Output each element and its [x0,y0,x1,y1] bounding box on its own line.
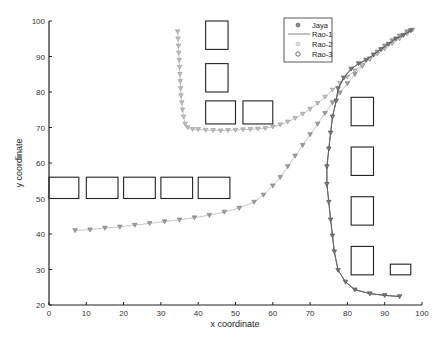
obstacle-rect [243,101,273,124]
data-point-rao-2 [178,87,183,91]
legend-rao1-label: Rao-1 [312,30,332,39]
x-tick-label: 20 [119,309,128,318]
data-point-rao-2 [178,72,183,76]
obstacle-rect [206,64,228,92]
legend-jaya-label: Jaya [312,21,329,30]
data-point-rao-2 [179,94,184,98]
data-point-rao-2 [175,30,180,34]
x-tick-label: 70 [306,309,315,318]
obstacle-rect [86,177,118,198]
obstacle-rect [351,197,373,225]
legend-rao2-marker-icon [296,42,300,46]
data-point-jaya [328,131,333,135]
y-tick-label: 60 [36,159,45,168]
obstacles-layer [49,21,411,275]
obstacle-rect [206,101,236,124]
data-point-jaya [325,183,330,187]
obstacle-rect [351,147,373,175]
data-point-rao-2 [177,65,182,69]
data-point-jaya [336,87,341,91]
x-tick-label: 90 [380,309,389,318]
x-axis-title: x coordinate [210,319,259,329]
data-point-jaya [332,250,337,254]
data-point-jaya [328,218,333,222]
data-point-rao-2 [178,80,183,84]
x-tick-label: 0 [47,309,52,318]
obstacle-rect [49,177,79,198]
obstacle-rect [390,264,411,275]
legend-rao3-label: Rao-3 [312,50,332,59]
data-point-rao-2 [179,101,184,105]
y-tick-label: 70 [36,124,45,133]
x-tick-label: 40 [194,309,203,318]
y-tick-label: 80 [36,88,45,97]
data-point-jaya [330,234,335,238]
obstacle-rect [198,177,230,198]
data-point-rao-2 [176,44,181,48]
y-tick-label: 50 [36,195,45,204]
y-tick-label: 90 [36,53,45,62]
y-axis-title: y coordinate [14,138,24,187]
obstacle-rect [124,177,156,198]
y-tick-label: 40 [36,230,45,239]
obstacle-rect [351,97,373,125]
obstacle-rect [206,21,228,49]
data-point-rao-2 [293,116,298,120]
data-point-rao-2 [300,112,305,116]
y-tick-label: 30 [36,266,45,275]
x-tick-label: 60 [268,309,277,318]
data-point-jaya [326,147,331,151]
data-point-rao-2 [181,115,186,119]
x-tick-label: 30 [156,309,165,318]
legend-jaya-marker-icon [296,23,300,27]
x-tick-label: 80 [343,309,352,318]
path-planning-chart: 0102030405060708090100203040506070809010… [0,0,443,343]
y-tick-label: 20 [36,301,45,310]
data-point-jaya [325,165,330,169]
x-tick-label: 100 [415,309,429,318]
legend-rao3-marker-icon [296,52,300,56]
y-tick-label: 100 [32,17,46,26]
data-point-jaya [330,115,335,119]
legend-rao2-label: Rao-2 [312,40,332,49]
data-point-jaya [326,200,331,204]
data-point-rao-2 [176,37,181,41]
x-tick-label: 10 [82,309,91,318]
data-point-rao-2 [180,108,185,112]
obstacle-rect [351,246,373,274]
data-point-rao-2 [177,58,182,62]
legend: Jaya Rao-1 Rao-2 Rao-3 [284,18,332,62]
data-point-rao-2 [177,51,182,55]
x-tick-label: 50 [231,309,240,318]
obstacle-rect [161,177,193,198]
